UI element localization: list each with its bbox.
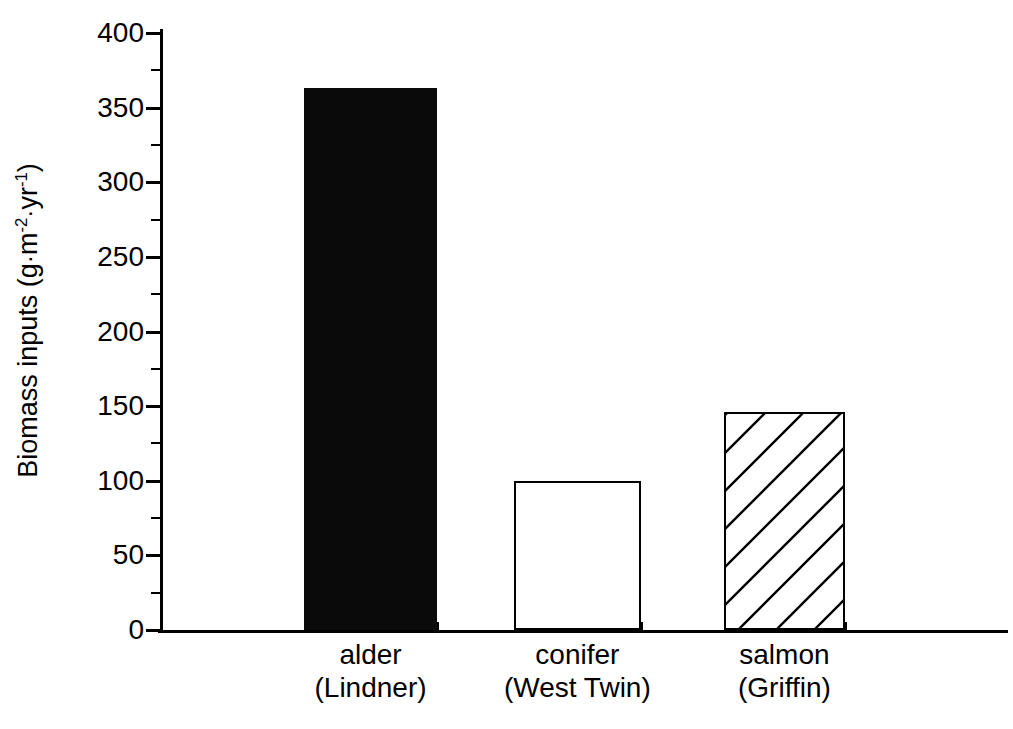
y-axis-major-tick [146,107,161,110]
x-axis-tick [437,622,439,633]
y-axis-tick-labels: 050100150200250300350400 [56,0,144,729]
y-axis-title-unit-m: m [13,232,43,255]
y-axis-title-dot-1: · [15,255,42,263]
bar [724,412,845,630]
x-axis-tick [845,622,847,633]
y-axis-minor-tick [151,69,161,71]
y-axis-major-tick [146,405,161,408]
y-axis-major-tick [146,256,161,259]
bar [304,88,437,630]
y-axis-tick-label: 100 [56,467,144,495]
y-axis-line [160,29,163,630]
x-axis-category-label: conifer(West Twin) [504,638,651,704]
y-axis-minor-tick [151,592,161,594]
y-axis-title-suffix: ) [13,163,43,172]
bar [514,481,641,630]
x-axis-tick [641,622,643,633]
y-axis-minor-tick [151,144,161,146]
plot-area [160,33,1008,630]
y-axis-minor-tick [151,442,161,444]
y-axis-tick-label: 250 [56,243,144,271]
y-axis-tick-label: 300 [56,168,144,196]
y-axis-minor-tick [151,368,161,370]
y-axis-major-tick [146,32,161,35]
y-axis-tick-label: 0 [56,616,144,644]
y-axis-tick-label: 400 [56,19,144,47]
category-label-line-2: (Lindner) [315,671,427,704]
y-axis-minor-tick [151,219,161,221]
y-axis-title-container: Biomass inputs (g·m-2·yr-1) [0,0,56,640]
y-axis-title-unit-yr: yr [13,187,43,210]
y-axis-major-tick [146,331,161,334]
y-axis-major-tick [146,480,161,483]
y-axis-tick-label: 150 [56,392,144,420]
category-label-line-1: conifer [535,639,619,670]
y-axis-title-prefix: Biomass inputs (g [13,263,43,478]
y-axis-title-exponent-m: -2 [12,217,31,232]
y-axis-title: Biomass inputs (g·m-2·yr-1) [13,163,44,478]
bar-chart-figure: Biomass inputs (g·m-2·yr-1) 050100150200… [0,0,1013,729]
y-axis-minor-tick [151,293,161,295]
x-axis-category-label: salmon(Griffin) [738,638,831,704]
y-axis-title-dot-2: · [15,209,42,217]
y-axis-major-tick [146,554,161,557]
category-label-line-2: (Griffin) [738,671,831,704]
x-axis-line [158,630,1008,633]
y-axis-title-exponent-yr: -1 [12,172,31,187]
x-axis-category-label: alder(Lindner) [315,638,427,704]
y-axis-minor-tick [151,517,161,519]
y-axis-tick-label: 50 [56,541,144,569]
hatch-pattern [726,414,843,628]
category-label-line-2: (West Twin) [504,671,651,704]
y-axis-tick-label: 350 [56,94,144,122]
y-axis-major-tick [146,629,161,632]
y-axis-major-tick [146,181,161,184]
category-label-line-1: alder [339,639,401,670]
category-label-line-1: salmon [739,639,829,670]
y-axis-tick-label: 200 [56,318,144,346]
